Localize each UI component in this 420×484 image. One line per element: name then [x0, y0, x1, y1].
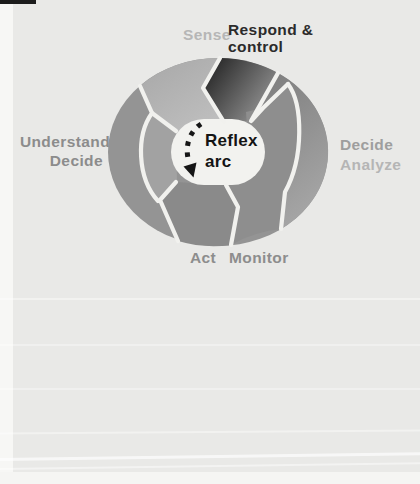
label-respond-line2: control	[228, 38, 283, 55]
label-act: Act	[190, 249, 216, 266]
label-sense: Sense	[183, 26, 231, 43]
label-respond-line1: Respond &	[228, 21, 313, 38]
label-reflex: Reflex	[205, 131, 258, 150]
reflex-arc-diagram: Sense Respond & control Understand Decid…	[0, 0, 420, 484]
label-reflex-arc: arc	[205, 152, 231, 171]
label-analyze: Analyze	[340, 156, 401, 173]
label-monitor: Monitor	[229, 249, 289, 266]
label-decide: Decide	[340, 136, 393, 153]
label-understand-decide: Decide	[50, 152, 103, 169]
label-understand: Understand	[20, 133, 110, 150]
scanned-page: Sense Respond & control Understand Decid…	[0, 0, 420, 484]
